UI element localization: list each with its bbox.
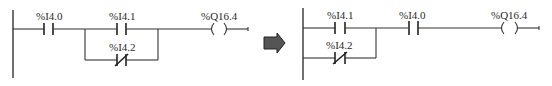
contact-no-i4-0: %I4.0 — [36, 10, 63, 35]
contact-label: %I4.2 — [326, 39, 353, 51]
contact-label: %I4.0 — [399, 9, 426, 21]
contact-nc-i4-2: %I4.2 — [326, 39, 353, 64]
contact-no-i4-0: %I4.0 — [399, 9, 426, 35]
coil-q16-4: %Q16.4 — [491, 9, 528, 34]
contact-label: %I4.0 — [36, 10, 63, 22]
contact-label: %I4.1 — [109, 10, 136, 22]
transform-arrow-icon — [264, 33, 285, 53]
coil-label: %Q16.4 — [201, 10, 238, 22]
ladder-before: %I4.0 %I4.1 %I4.2 %Q16.4 — [13, 10, 248, 78]
ladder-after: %I4.1 %I4.2 %I4.0 %Q16.4 — [303, 8, 539, 80]
contact-label: %I4.1 — [327, 9, 354, 21]
ladder-diagram-canvas: %I4.0 %I4.1 %I4.2 %Q16.4 — [0, 0, 552, 86]
contact-nc-i4-2: %I4.2 — [109, 41, 136, 66]
contact-no-i4-1: %I4.1 — [327, 9, 354, 34]
coil-q16-4: %Q16.4 — [201, 10, 238, 35]
contact-no-i4-1: %I4.1 — [109, 10, 136, 35]
contact-label: %I4.2 — [109, 41, 136, 53]
coil-label: %Q16.4 — [491, 9, 528, 21]
